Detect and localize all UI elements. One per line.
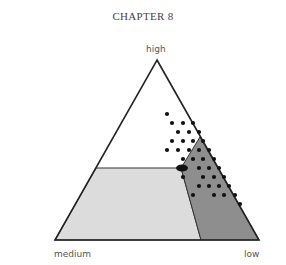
data-point	[207, 166, 211, 170]
data-point	[222, 193, 226, 197]
data-point	[187, 148, 191, 152]
data-point	[197, 148, 201, 152]
ternary-diagram	[0, 0, 286, 265]
data-point	[191, 193, 195, 197]
data-point	[187, 130, 191, 134]
data-point	[165, 148, 169, 152]
data-point	[181, 157, 185, 161]
data-point	[197, 184, 201, 188]
data-point	[181, 121, 185, 125]
data-point	[191, 139, 195, 143]
data-point	[217, 184, 221, 188]
data-point	[170, 139, 174, 143]
data-point	[176, 130, 180, 134]
data-point	[197, 130, 201, 134]
data-point	[197, 166, 201, 170]
data-point	[207, 184, 211, 188]
data-point	[227, 184, 231, 188]
data-point	[212, 193, 216, 197]
data-point	[191, 121, 195, 125]
data-point-cluster	[176, 165, 188, 172]
data-point	[165, 112, 169, 116]
data-point	[212, 157, 216, 161]
data-point	[191, 157, 195, 161]
data-point	[170, 121, 174, 125]
data-point	[201, 139, 205, 143]
data-point	[181, 139, 185, 143]
data-point	[201, 157, 205, 161]
data-point	[181, 175, 185, 179]
data-point	[238, 202, 242, 206]
data-point	[207, 148, 211, 152]
light-region	[55, 168, 201, 240]
data-point	[222, 175, 226, 179]
data-point	[212, 175, 216, 179]
data-point	[176, 148, 180, 152]
data-point	[233, 193, 237, 197]
data-point	[201, 175, 205, 179]
data-point	[217, 166, 221, 170]
